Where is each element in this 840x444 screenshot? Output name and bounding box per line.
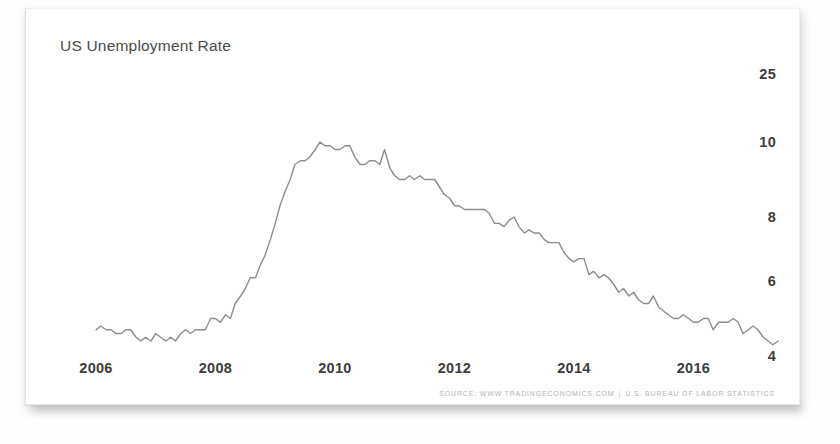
y-axis-tick-25: 25: [759, 67, 776, 82]
source-label: SOURCE: WWW.TRADINGECONOMICS.COM: [439, 390, 614, 397]
x-axis-tick-2008: 2008: [199, 361, 232, 376]
line-chart-svg: [52, 18, 802, 378]
y-axis-tick-10: 10: [759, 135, 776, 150]
x-axis-tick-2014: 2014: [557, 361, 590, 376]
y-axis-tick-4: 4: [768, 349, 776, 364]
agency-label: U.S. BUREAU OF LABOR STATISTICS: [625, 390, 775, 397]
chart-screenshot: US Unemployment Rate 2510864 20062008201…: [0, 0, 840, 444]
chart-card: US Unemployment Rate 2510864 20062008201…: [25, 8, 800, 405]
y-axis-tick-6: 6: [768, 274, 776, 289]
source-separator: |: [615, 390, 626, 397]
x-axis-tick-2010: 2010: [318, 361, 351, 376]
card-drop-shadow: [34, 404, 802, 418]
x-axis-tick-2016: 2016: [677, 361, 710, 376]
source-attribution: SOURCE: WWW.TRADINGECONOMICS.COM|U.S. BU…: [439, 390, 775, 397]
y-axis-tick-8: 8: [768, 210, 776, 225]
plot-area: [52, 18, 802, 378]
x-axis-tick-2006: 2006: [79, 361, 112, 376]
x-axis-tick-2012: 2012: [438, 361, 471, 376]
unemployment-rate-line: [96, 142, 778, 345]
